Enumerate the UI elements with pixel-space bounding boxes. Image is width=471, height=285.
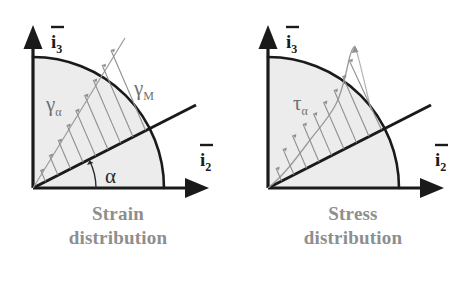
horizontal-axis-arrowhead (185, 178, 209, 198)
strain-gamma-max-label: γM (133, 76, 154, 103)
vertical-axis-label: i3 (51, 27, 64, 56)
horizontal-axis-label: i2 (435, 145, 448, 174)
angle-alpha-label: α (105, 164, 116, 188)
vertical-axis-label-text: i3 (286, 31, 297, 56)
strain-diagram-svg: α γα γM i3 i2 (0, 0, 236, 205)
vertical-axis-arrowhead (259, 25, 278, 49)
horizontal-axis-arrowhead (420, 178, 444, 198)
strain-caption: Strain distribution (0, 202, 236, 250)
stress-diagram-svg: τα i3 i2 (235, 0, 471, 205)
strain-caption-line2: distribution (0, 226, 236, 250)
stress-caption-line1: Stress (235, 202, 471, 226)
stress-caption-line2: distribution (235, 226, 471, 250)
sector-fill (33, 57, 164, 188)
figure-root: α γα γM i3 i2 (0, 0, 471, 285)
horizontal-axis-label-text: i2 (200, 149, 211, 174)
panel-stress-distribution: τα i3 i2 Stress distribution (235, 0, 471, 285)
strain-caption-line1: Strain (0, 202, 236, 226)
stress-caption: Stress distribution (235, 202, 471, 250)
vertical-axis-label: i3 (286, 27, 299, 56)
horizontal-axis-label-text: i2 (435, 149, 446, 174)
vertical-axis-arrowhead (24, 25, 43, 49)
vertical-axis-label-text: i3 (51, 31, 62, 56)
horizontal-axis-label: i2 (200, 145, 213, 174)
panel-strain-distribution: α γα γM i3 i2 (0, 0, 236, 285)
